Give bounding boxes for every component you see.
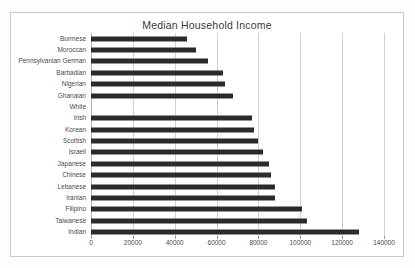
bar-row: Ghanaian bbox=[91, 90, 384, 101]
x-tick-label-100000: 100000 bbox=[289, 240, 311, 247]
bar-row: Indian bbox=[91, 226, 384, 237]
x-tick-label-80000: 80000 bbox=[249, 240, 267, 247]
bar-ghanaian[interactable] bbox=[91, 93, 233, 98]
bar-track bbox=[91, 59, 384, 64]
bar-barbadian[interactable] bbox=[91, 70, 223, 75]
x-tick-label-40000: 40000 bbox=[166, 240, 184, 247]
bar-row: White bbox=[91, 101, 384, 112]
bar-row: Irish bbox=[91, 113, 384, 124]
bar-track bbox=[91, 161, 384, 166]
bar-row: Barbadian bbox=[91, 67, 384, 78]
category-label-ghanaian: Ghanaian bbox=[58, 92, 86, 99]
bar-track bbox=[91, 82, 384, 87]
bar-row: Taiwanese bbox=[91, 215, 384, 226]
bar-nigerian[interactable] bbox=[91, 82, 225, 87]
bar-iranian[interactable] bbox=[91, 195, 275, 200]
category-label-korean: Korean bbox=[65, 126, 86, 133]
bar-row: Nigerian bbox=[91, 79, 384, 90]
bar-track bbox=[91, 139, 384, 144]
x-tick-label-0: 0 bbox=[89, 240, 93, 247]
bar-lebanese[interactable] bbox=[91, 184, 275, 189]
bar-track bbox=[91, 150, 384, 155]
bar-row: Lebanese bbox=[91, 181, 384, 192]
bar-track bbox=[91, 36, 384, 41]
bar-scottish[interactable] bbox=[91, 139, 258, 144]
bar-track bbox=[91, 70, 384, 75]
bar-track bbox=[91, 195, 384, 200]
bar-burmese[interactable] bbox=[91, 36, 187, 41]
bar-track bbox=[91, 116, 384, 121]
bar-track bbox=[91, 127, 384, 132]
bar-track bbox=[91, 93, 384, 98]
category-label-barbadian: Barbadian bbox=[56, 70, 86, 77]
bar-row: Filipino bbox=[91, 204, 384, 215]
x-axis: 020000400006000080000100000120000140000 bbox=[91, 240, 384, 254]
bar-rows: BurmeseMoroccanPennsylvanian GermanBarba… bbox=[91, 33, 384, 238]
bar-japanese[interactable] bbox=[91, 161, 269, 166]
bar-pennsylvanian-german[interactable] bbox=[91, 59, 208, 64]
bar-irish[interactable] bbox=[91, 116, 252, 121]
bar-row: Israeli bbox=[91, 147, 384, 158]
category-label-white: White bbox=[69, 104, 86, 111]
category-label-lebanese: Lebanese bbox=[57, 183, 86, 190]
bar-track bbox=[91, 173, 384, 178]
bar-row: Burmese bbox=[91, 33, 384, 44]
bar-track bbox=[91, 218, 384, 223]
category-label-japanese: Japanese bbox=[58, 161, 86, 168]
category-label-pennsylvanian-german: Pennsylvanian German bbox=[18, 58, 86, 65]
bar-indian[interactable] bbox=[91, 230, 359, 235]
category-label-filipino: Filipino bbox=[65, 206, 86, 213]
bar-moroccan[interactable] bbox=[91, 48, 196, 53]
chart-page: Median Household Income BurmeseMoroccanP… bbox=[0, 0, 415, 268]
x-tick-label-140000: 140000 bbox=[373, 240, 395, 247]
category-label-burmese: Burmese bbox=[60, 35, 86, 42]
bar-israeli[interactable] bbox=[91, 150, 263, 155]
bar-row: Moroccan bbox=[91, 44, 384, 55]
plot-area: BurmeseMoroccanPennsylvanian GermanBarba… bbox=[91, 33, 384, 238]
bar-track bbox=[91, 184, 384, 189]
category-label-taiwanese: Taiwanese bbox=[55, 217, 86, 224]
bar-row: Chinese bbox=[91, 170, 384, 181]
x-tick-label-120000: 120000 bbox=[331, 240, 353, 247]
bar-taiwanese[interactable] bbox=[91, 218, 307, 223]
bar-track bbox=[91, 48, 384, 53]
x-tick-label-20000: 20000 bbox=[124, 240, 142, 247]
bar-track bbox=[91, 207, 384, 212]
category-label-irish: Irish bbox=[74, 115, 86, 122]
category-label-iranian: Iranian bbox=[66, 195, 86, 202]
bar-row: Korean bbox=[91, 124, 384, 135]
category-label-moroccan: Moroccan bbox=[57, 47, 86, 54]
chart-frame: Median Household Income BurmeseMoroccanP… bbox=[10, 12, 404, 257]
category-label-indian: Indian bbox=[68, 229, 86, 236]
category-label-nigerian: Nigerian bbox=[62, 81, 86, 88]
bar-chinese[interactable] bbox=[91, 173, 271, 178]
bar-filipino[interactable] bbox=[91, 207, 302, 212]
bar-row: Scottish bbox=[91, 135, 384, 146]
category-label-chinese: Chinese bbox=[62, 172, 86, 179]
bar-track bbox=[91, 230, 384, 235]
bar-row: Japanese bbox=[91, 158, 384, 169]
bar-track bbox=[91, 104, 384, 109]
chart-title: Median Household Income bbox=[11, 19, 403, 31]
bar-row: Iranian bbox=[91, 192, 384, 203]
x-tick-label-60000: 60000 bbox=[208, 240, 226, 247]
gridline-140000 bbox=[384, 33, 385, 238]
category-label-scottish: Scottish bbox=[63, 138, 86, 145]
bar-row: Pennsylvanian German bbox=[91, 56, 384, 67]
bar-korean[interactable] bbox=[91, 127, 254, 132]
category-label-israeli: Israeli bbox=[69, 149, 86, 156]
